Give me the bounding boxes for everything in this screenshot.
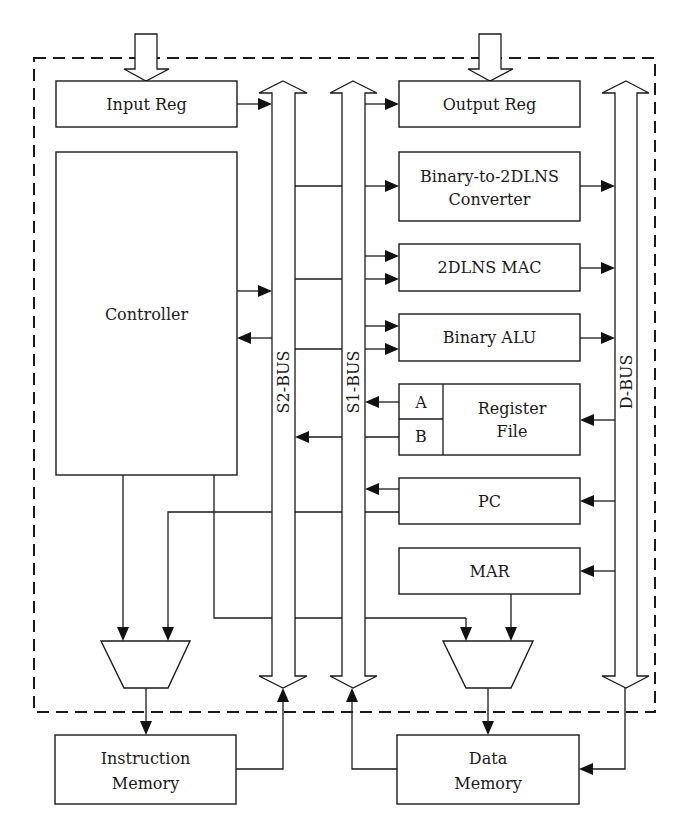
dmem-label-line2: Memory <box>454 774 521 793</box>
input-reg-label: Input Reg <box>106 95 186 114</box>
mac-label: 2DLNS MAC <box>438 258 542 277</box>
data-memory-block <box>397 735 579 804</box>
converter-block <box>399 152 580 221</box>
alu-label: Binary ALU <box>443 328 536 347</box>
pc-label: PC <box>478 492 501 511</box>
regfile-port-b-label: B <box>415 427 427 446</box>
dmem-label-line1: Data <box>469 749 508 768</box>
mar-label: MAR <box>470 562 511 581</box>
d-bus-label: D-BUS <box>617 355 636 410</box>
controller-label: Controller <box>105 305 189 324</box>
regfile-port-a-label: A <box>414 393 427 412</box>
converter-label-line1: Binary-to-2DLNS <box>420 167 559 186</box>
imem-label-line1: Instruction <box>101 749 191 768</box>
regfile-label-line2: File <box>497 422 528 441</box>
data-mux <box>443 641 533 688</box>
converter-label-line2: Converter <box>449 190 531 209</box>
regfile-label-line1: Register <box>478 399 547 418</box>
imem-label-line2: Memory <box>112 774 179 793</box>
architecture-diagram: Input Reg Controller Output Reg Binary-t… <box>0 0 689 830</box>
s2-bus-label: S2-BUS <box>274 351 293 414</box>
output-reg-label: Output Reg <box>443 95 537 114</box>
s1-bus-label: S1-BUS <box>344 351 363 414</box>
instruction-memory-block <box>55 735 236 804</box>
instruction-mux <box>101 641 190 688</box>
